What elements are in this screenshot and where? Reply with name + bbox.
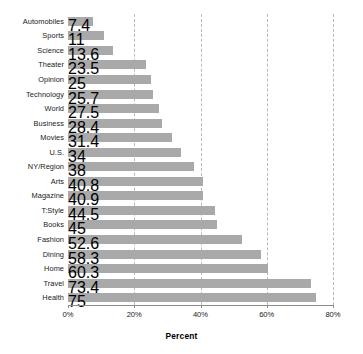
category-label: T:Style [0,206,64,215]
bar: 25 [68,75,151,84]
bar: 11 [68,31,104,40]
category-label: Business [0,119,64,128]
x-tick-label: 60% [247,310,287,319]
x-tick-mark [68,305,69,308]
gridline-20% [134,14,135,305]
category-label: Opinion [0,75,64,84]
bar: 73.4 [68,279,311,288]
x-tick-label: 80% [313,310,353,319]
x-tick-label: 0% [48,310,88,319]
category-axis: AutomobilesSportsScienceTheaterOpinionTe… [0,14,64,305]
category-label: Health [0,293,64,302]
category-label: U.S. [0,148,64,157]
bar: 40.8 [68,177,203,186]
category-label: Travel [0,279,64,288]
bar: 58.3 [68,250,261,259]
bar: 28.4 [68,119,162,128]
category-label: Arts [0,177,64,186]
category-label: Movies [0,133,64,142]
bar: 60.3 [68,264,268,273]
x-axis-title: Percent [0,331,363,341]
x-tick-mark [333,305,334,308]
bar: 40.9 [68,191,203,200]
category-label: NY/Region [0,162,64,171]
bar: 75 [68,293,316,302]
category-label: Science [0,46,64,55]
gridline-80% [333,14,334,305]
category-label: Technology [0,90,64,99]
category-label: Home [0,264,64,273]
x-tick-label: 40% [181,310,221,319]
bar: 27.5 [68,104,159,113]
category-label: Books [0,220,64,229]
category-label: Sports [0,31,64,40]
x-axis: 0%20%40%60%80% [68,305,333,323]
bar: 45 [68,220,217,229]
category-label: Automobiles [0,17,64,26]
x-tick-mark [201,305,202,308]
bar: 23.5 [68,60,146,69]
category-label: Magazine [0,191,64,200]
bar: 25.7 [68,90,153,99]
bar: 31.4 [68,133,172,142]
bar: 13.6 [68,46,113,55]
x-tick-mark [134,305,135,308]
gridline-40% [201,14,202,305]
bar: 7.4 [68,17,93,26]
gridline-60% [267,14,268,305]
bar: 34 [68,148,181,157]
bar: 38 [68,162,194,171]
x-tick-mark [267,305,268,308]
category-label: Theater [0,60,64,69]
bar: 44.5 [68,206,215,215]
x-tick-label: 20% [114,310,154,319]
bar: 52.6 [68,235,242,244]
plot-area: 7.41113.623.52525.727.528.431.4343840.84… [68,14,333,305]
category-label: World [0,104,64,113]
category-label: Dining [0,250,64,259]
category-label: Fashion [0,235,64,244]
bar-chart: AutomobilesSportsScienceTheaterOpinionTe… [0,0,363,354]
